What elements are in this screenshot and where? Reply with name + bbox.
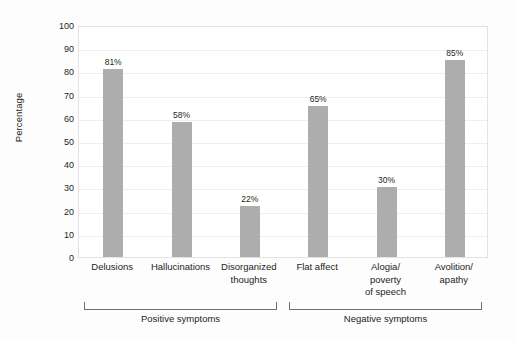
x-axis-label-line: of speech [338,286,434,299]
gridline [79,236,487,237]
x-axis-tick-labels: DelusionsHallucinationsDisorganizedthoug… [78,261,488,307]
bar-value-label-flat-affect: 65% [310,94,327,104]
bar-value-label-delusions: 81% [105,57,122,67]
bracket-negative-symptoms [289,302,482,310]
y-axis-tick-100: 100 [46,21,74,31]
y-axis-tick-80: 80 [46,67,74,77]
gridline [79,189,487,190]
gridline [79,50,487,51]
y-axis-tick-60: 60 [46,114,74,124]
x-axis-label-line: Avolition/ [406,261,502,274]
y-axis-title: Percentage [13,58,24,178]
y-axis-tick-50: 50 [46,137,74,147]
y-axis-tick-30: 30 [46,183,74,193]
x-axis-label-line: thoughts [201,274,297,287]
gridline [79,120,487,121]
gridline [79,213,487,214]
bar-hallucinations: 58% [172,122,192,257]
y-axis-tick-40: 40 [46,160,74,170]
bar-flat-affect: 65% [308,106,328,257]
bar-alogia: 30% [377,187,397,257]
gridline [79,73,487,74]
y-axis-tick-90: 90 [46,44,74,54]
bar-value-label-hallucinations: 58% [173,110,190,120]
plot-area: 81%58%22%65%30%85% [78,26,488,258]
bar-value-label-avolition: 85% [446,48,463,58]
bar-delusions: 81% [103,69,123,257]
bar-chart-figure: Percentage 1009080706050403020100 81%58%… [0,0,516,342]
y-axis-tick-labels: 1009080706050403020100 [46,26,74,258]
x-axis-label-avolition: Avolition/apathy [406,261,502,286]
gridline [79,143,487,144]
gridline [79,97,487,98]
y-axis-tick-20: 20 [46,207,74,217]
group-label-positive-symptoms: Positive symptoms [141,313,220,324]
y-axis-tick-70: 70 [46,91,74,101]
bar-value-label-alogia: 30% [378,175,395,185]
y-axis-tick-10: 10 [46,230,74,240]
x-axis-label-line: apathy [406,274,502,287]
bar-disorganized-thoughts: 22% [240,206,260,257]
group-label-negative-symptoms: Negative symptoms [344,313,427,324]
bar-value-label-disorganized-thoughts: 22% [241,194,258,204]
bar-avolition: 85% [445,60,465,257]
bracket-positive-symptoms [84,302,277,310]
gridline [79,166,487,167]
